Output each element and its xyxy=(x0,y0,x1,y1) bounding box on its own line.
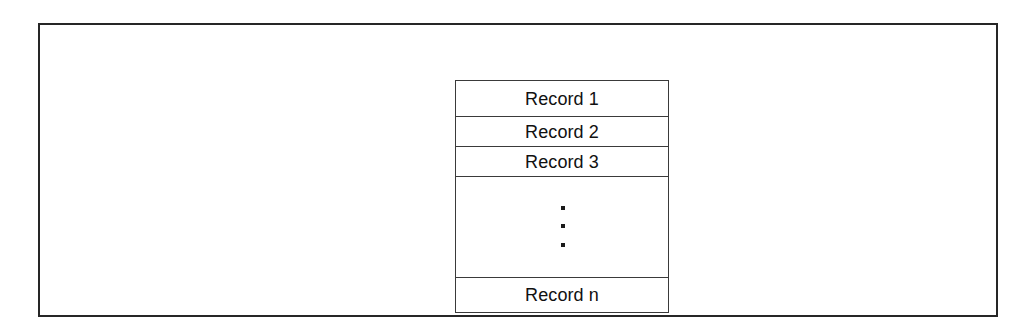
ellipsis-dot-icon xyxy=(561,206,565,210)
record-label: Record 1 xyxy=(525,89,599,107)
record-table: Record 1 Record 2 Record 3 Record n xyxy=(455,80,669,313)
figure-border-frame: Record 1 Record 2 Record 3 Record n xyxy=(38,23,998,317)
figure-canvas: Record 1 Record 2 Record 3 Record n xyxy=(0,0,1035,335)
record-label: Record 2 xyxy=(525,122,599,140)
table-row: Record 3 xyxy=(456,147,668,177)
table-row: Record 1 xyxy=(456,81,668,117)
ellipsis-dot-icon xyxy=(561,243,565,247)
table-row: Record n xyxy=(456,278,668,312)
ellipsis-dot-icon xyxy=(561,224,565,228)
record-label: Record 3 xyxy=(525,152,599,170)
table-row-ellipsis xyxy=(456,177,668,278)
table-row: Record 2 xyxy=(456,117,668,147)
record-label: Record n xyxy=(525,286,599,304)
